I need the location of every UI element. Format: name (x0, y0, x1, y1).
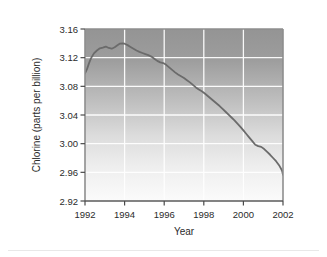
y-axis-tick-labels: 3.16 3.12 3.08 3.04 3.00 2.96 2.92 (60, 24, 79, 207)
y-tick-label: 3.08 (60, 81, 79, 92)
x-tick-label: 2002 (272, 209, 293, 220)
y-tick-label: 2.92 (60, 196, 79, 207)
y-tick-label: 3.16 (60, 24, 79, 35)
x-tick-label: 1992 (74, 209, 95, 220)
x-tick-label: 2000 (233, 209, 254, 220)
y-tick-label: 2.96 (60, 167, 79, 178)
x-tick-label: 1996 (154, 209, 175, 220)
figure-bottom-rule (8, 250, 319, 251)
x-tick-label: 1998 (193, 209, 214, 220)
y-tick-label: 3.12 (60, 52, 79, 63)
chlorine-line-chart: 3.16 3.12 3.08 3.04 3.00 2.96 2.92 1992 … (0, 0, 327, 257)
x-tick-label: 1994 (114, 209, 135, 220)
x-axis-tick-labels: 1992 1994 1996 1998 2000 2002 (74, 209, 293, 220)
y-axis-title: Chlorine (parts per billion) (31, 58, 42, 173)
y-tick-label: 3.00 (60, 138, 79, 149)
x-axis-title: Year (174, 226, 195, 237)
y-tick-label: 3.04 (60, 110, 79, 121)
chart-figure: 3.16 3.12 3.08 3.04 3.00 2.96 2.92 1992 … (0, 0, 327, 257)
